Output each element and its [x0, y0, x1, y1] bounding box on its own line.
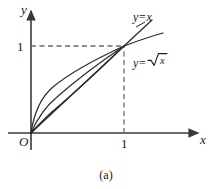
sqrt-radicand: x	[159, 55, 165, 66]
plot-svg	[0, 0, 212, 189]
sqrt-label-prefix: y=	[133, 57, 146, 69]
curve-label-y-equals-sqrt-x: y= x	[133, 52, 168, 69]
figure-caption: (a)	[0, 168, 212, 183]
curve-y-equals-sqrt-x	[31, 33, 163, 133]
x-axis-tick-label-1: 1	[121, 137, 128, 150]
origin-label: O	[19, 135, 28, 148]
curve-label-y-equals-x: y=x	[133, 11, 152, 23]
figure-container: y x 1 1 O y=x y= x (a)	[0, 0, 212, 189]
y-axis-tick-label-1: 1	[17, 40, 24, 53]
radical-icon: x	[147, 52, 168, 67]
y-axis-label: y	[21, 3, 27, 16]
x-axis-label: x	[200, 133, 206, 146]
